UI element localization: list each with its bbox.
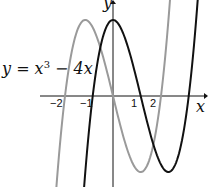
y-axis-label: y [103, 0, 112, 12]
equation-label: y = x3 − 4x [2, 59, 93, 78]
tick-label-neg1: −1 [80, 97, 93, 109]
tick-label-neg2: −2 [50, 97, 63, 109]
plot-area [0, 0, 208, 187]
tick-label-2: 2 [150, 97, 156, 109]
graph-diagram: y = x3 − 4x −2 −1 1 2 x y [0, 0, 208, 187]
curve-shifted [83, 0, 199, 187]
tick-label-1: 1 [131, 97, 137, 109]
x-axis-label: x [196, 97, 205, 116]
